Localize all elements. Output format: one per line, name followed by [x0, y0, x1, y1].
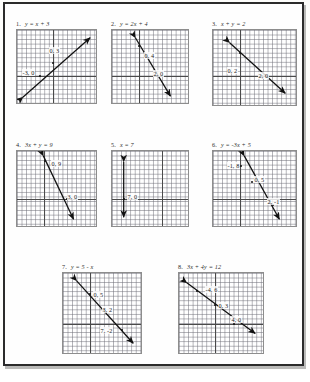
problem-8-number: 8. [178, 263, 183, 270]
problem-6-equation: y = -3x + 5 [221, 141, 251, 148]
problem-7-line [63, 273, 141, 353]
problem-6-point-label-1: -1, 8 [227, 162, 240, 169]
problem-7-graph: 0, 5 3, 2 7, -2 [62, 272, 142, 354]
problem-3-point-label-1: 0, 2 [227, 67, 238, 74]
problem-5-equation: x = 7 [120, 141, 134, 148]
problem-2-graph: 0, 4 2, 0 [111, 29, 189, 104]
point-dot [251, 181, 253, 183]
problem-5-line [112, 151, 188, 226]
problem-4-number: 4. [16, 141, 21, 148]
problem-8-graph: -4, 6 0, 3 4, 0 [178, 272, 264, 354]
point-dot [123, 198, 125, 200]
problem-2: 2.y = 2x + 4 0, 4 2, 0 [111, 20, 189, 104]
problem-6: 6.y = -3x + 5 -1, 8 0, 5 2, -1 [212, 141, 297, 227]
problem-6-graph: -1, 8 0, 5 2, -1 [212, 150, 297, 227]
point-dot [39, 75, 41, 77]
point-dot [239, 52, 241, 54]
problem-6-number: 6. [212, 141, 217, 148]
problem-4-point-label-1: 0, 9 [51, 160, 62, 167]
problem-7-point-label-3: 7, -2 [100, 327, 113, 334]
problem-1-equation: y = x + 3 [25, 20, 49, 27]
problem-8-point-label-3: 4, 0 [231, 316, 242, 323]
page-bottom-margin [0, 370, 310, 382]
problem-4-point-label-2: 3, 0 [67, 193, 78, 200]
point-dot [233, 323, 235, 325]
problem-3-heading: 3.x + y = 2 [212, 20, 297, 27]
problem-8-point-label-2: 0, 3 [218, 302, 229, 309]
problem-3-line [213, 30, 296, 105]
problem-2-heading: 2.y = 2x + 4 [111, 20, 189, 27]
problem-1-graph: 0, 3 -3, 0 [16, 29, 97, 104]
problem-6-heading: 6.y = -3x + 5 [212, 141, 297, 148]
problem-3: 3.x + y = 2 0, 2 2, 0 [212, 20, 297, 106]
point-dot [52, 62, 54, 64]
problem-3-graph: 0, 2 2, 0 [212, 29, 297, 106]
problem-5: 5.x = 7 7, 0 [111, 141, 189, 227]
problem-5-heading: 5.x = 7 [111, 141, 189, 148]
problem-8-point-label-1: -4, 6 [205, 286, 218, 293]
problem-8-heading: 8.3x + 4y = 12 [178, 263, 264, 270]
problem-1-point-label-2: -3, 0 [22, 69, 35, 76]
problem-2-number: 2. [111, 20, 116, 27]
point-dot [196, 290, 198, 292]
problem-3-equation: x + y = 2 [221, 20, 245, 27]
point-dot [121, 329, 123, 331]
problem-7-point-label-1: 0, 5 [93, 291, 104, 298]
problem-7-number: 7. [62, 263, 67, 270]
problem-1-line [17, 30, 96, 103]
problem-4-graph: 0, 9 3, 0 [16, 150, 97, 227]
point-dot [240, 165, 242, 167]
problem-4-heading: 4.3x + y = 9 [16, 141, 97, 148]
problem-1: 1.y = x + 3 0, 3 -3, 0 [16, 20, 97, 104]
problem-3-number: 3. [212, 20, 217, 27]
problem-2-point-label-1: 0, 4 [144, 52, 155, 59]
problem-4-equation: 3x + y = 9 [25, 141, 53, 148]
problem-2-point-label-2: 2, 0 [153, 70, 164, 77]
problem-6-line [213, 151, 296, 226]
problem-8: 8.3x + 4y = 12 -4, 6 0, 3 4, 0 [178, 263, 264, 354]
problem-7-point-label-2: 3, 2 [102, 306, 113, 313]
point-dot [44, 160, 46, 162]
problem-1-heading: 1.y = x + 3 [16, 20, 97, 27]
point-dot [138, 45, 140, 47]
problem-6-point-label-3: 2, -1 [267, 198, 280, 205]
problem-2-equation: y = 2x + 4 [120, 20, 148, 27]
problem-2-line [112, 30, 188, 103]
problem-5-point-label-1: 7, 0 [127, 193, 138, 200]
problem-5-graph: 7, 0 [111, 150, 189, 227]
problem-3-point-label-2: 2, 0 [258, 72, 269, 79]
problem-8-equation: 3x + 4y = 12 [187, 263, 221, 270]
point-dot [89, 293, 91, 295]
problem-7-equation: y = 5 - x [71, 263, 93, 270]
problem-5-number: 5. [111, 141, 116, 148]
problem-1-number: 1. [16, 20, 21, 27]
problem-7: 7.y = 5 - x 0, 5 3, 2 7, -2 [62, 263, 142, 354]
problem-1-point-label-1: 0, 3 [49, 47, 60, 54]
problem-8-line [179, 273, 263, 353]
point-dot [214, 304, 216, 306]
worksheet-page: 1.y = x + 3 0, 3 -3, 0 2.y = 2x + 4 [0, 0, 310, 382]
problem-7-heading: 7.y = 5 - x [62, 263, 142, 270]
problem-6-point-label-2: 0, 5 [254, 176, 265, 183]
problem-4: 4.3x + y = 9 0, 9 3, 0 [16, 141, 97, 227]
